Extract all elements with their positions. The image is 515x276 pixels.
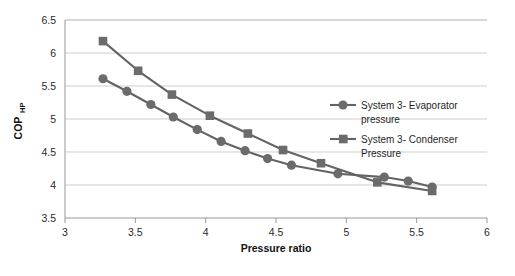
data-point-circle-marker xyxy=(122,87,131,96)
data-point-circle-marker xyxy=(263,154,272,163)
data-point-square-marker xyxy=(279,146,288,155)
x-tick-label: 5.5 xyxy=(409,226,424,238)
y-tick-label: 4.5 xyxy=(41,146,56,158)
data-point-square-marker xyxy=(428,187,437,196)
data-point-circle-marker xyxy=(287,161,296,170)
y-tick-label: 4 xyxy=(50,179,56,191)
legend-square-marker-icon xyxy=(339,135,348,144)
x-tick-label: 5 xyxy=(343,226,349,238)
legend-circle-marker-icon xyxy=(338,100,347,109)
data-point-square-marker xyxy=(99,37,108,46)
data-point-circle-marker xyxy=(217,137,226,146)
data-point-square-marker xyxy=(168,90,177,99)
data-point-circle-marker xyxy=(169,112,178,121)
chart-container: 33.544.555.56 3.544.555.566.5 COP HP Pre… xyxy=(0,0,515,276)
x-tick-label: 4 xyxy=(203,226,209,238)
data-point-circle-marker xyxy=(98,74,107,83)
y-tick-label: 3.5 xyxy=(41,212,56,224)
data-point-circle-marker xyxy=(146,100,155,109)
data-point-square-marker xyxy=(244,129,253,138)
x-tick-label: 3.5 xyxy=(128,226,143,238)
legend-label-line2: pressure xyxy=(361,114,400,125)
data-point-circle-marker xyxy=(240,146,249,155)
legend-label-line1: System 3- Condenser xyxy=(361,134,458,145)
data-point-square-marker xyxy=(317,159,326,168)
data-point-circle-marker xyxy=(404,176,413,185)
y-tick-label: 5.5 xyxy=(41,80,56,92)
data-point-square-marker xyxy=(373,178,382,187)
y-axis-title-main: COP xyxy=(12,117,24,140)
data-point-circle-marker xyxy=(193,125,202,134)
y-tick-label: 6 xyxy=(50,47,56,59)
x-axis-title: Pressure ratio xyxy=(241,242,312,254)
legend-label-line1: System 3- Evaporator xyxy=(361,100,458,111)
y-axis-title-subscript: HP xyxy=(18,103,27,113)
cop-vs-pressure-ratio-chart: 33.544.555.56 3.544.555.566.5 COP HP Pre… xyxy=(0,0,515,276)
x-tick-label: 4.5 xyxy=(269,226,284,238)
x-tick-label: 6 xyxy=(484,226,490,238)
y-tick-label: 6.5 xyxy=(41,14,56,26)
data-point-square-marker xyxy=(134,67,143,76)
x-tick-label: 3 xyxy=(62,226,68,238)
data-point-square-marker xyxy=(206,111,215,120)
legend-label-line2: Pressure xyxy=(361,148,401,159)
y-tick-label: 5 xyxy=(50,113,56,125)
